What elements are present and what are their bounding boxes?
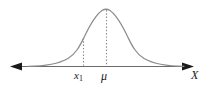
tick-label-x1-subscript: 1 <box>79 74 83 83</box>
x-axis-title: X <box>191 69 198 81</box>
normal-distribution-figure: x1 μ X <box>0 0 207 91</box>
tick-label-x1: x1 <box>74 70 83 83</box>
left-arrowhead-icon <box>10 63 22 71</box>
tick-label-mu: μ <box>101 70 107 82</box>
